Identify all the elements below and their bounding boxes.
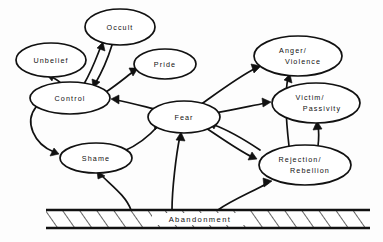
node-victim-passivity-label-line2: Passivity: [303, 104, 341, 113]
node-fear-label: Fear: [174, 113, 193, 122]
node-rejection-rebellion-label-line1: Rejection/: [279, 155, 322, 164]
node-occult[interactable]: Occult: [85, 9, 155, 45]
node-victim-passivity[interactable]: Victim/ Passivity: [272, 83, 360, 123]
edge-control-shame: [31, 107, 59, 156]
edge-abandonment-fear: [172, 132, 185, 210]
node-control-label: Control: [55, 94, 86, 103]
edge-fear-control: [111, 95, 158, 110]
node-occult-label: Occult: [107, 23, 134, 32]
edge-abandonment-shame: [97, 171, 131, 210]
node-layer: Occult Unbelief Pride Control Anger/ Vio…: [16, 9, 360, 185]
node-anger-violence-label-line1: Anger/: [279, 46, 307, 55]
node-shame[interactable]: Shame: [60, 143, 132, 173]
diagram-canvas: Occult Unbelief Pride Control Anger/ Vio…: [0, 0, 383, 242]
node-rejection-rebellion-label-line2: Rebellion: [290, 166, 330, 175]
node-shame-label: Shame: [82, 154, 110, 163]
diagram-graphic: Occult Unbelief Pride Control Anger/ Vio…: [0, 0, 383, 242]
edge-abandonment-rejection: [218, 178, 272, 210]
edge-control-pride: [106, 68, 138, 92]
node-control[interactable]: Control: [30, 82, 110, 114]
abandonment-foundation: Abandonment: [46, 210, 370, 228]
node-anger-violence-label-line2: Violence: [285, 57, 321, 66]
edge-occult-control: [92, 45, 112, 88]
node-unbelief[interactable]: Unbelief: [16, 43, 86, 77]
edge-fear-victim: [214, 98, 271, 113]
node-pride[interactable]: Pride: [134, 49, 196, 79]
node-anger-violence[interactable]: Anger/ Violence: [254, 36, 342, 76]
node-victim-passivity-label-line1: Victim/: [295, 93, 324, 102]
node-pride-label: Pride: [154, 60, 176, 69]
edge-control-occult: [84, 42, 105, 84]
node-fear[interactable]: Fear: [148, 101, 220, 133]
edge-fear-anger: [200, 64, 261, 105]
node-rejection-rebellion[interactable]: Rejection/ Rebellion: [259, 145, 351, 185]
node-unbelief-label: Unbelief: [33, 56, 68, 65]
foundation-label: Abandonment: [169, 215, 232, 224]
edge-rejection-victim: [313, 121, 322, 146]
